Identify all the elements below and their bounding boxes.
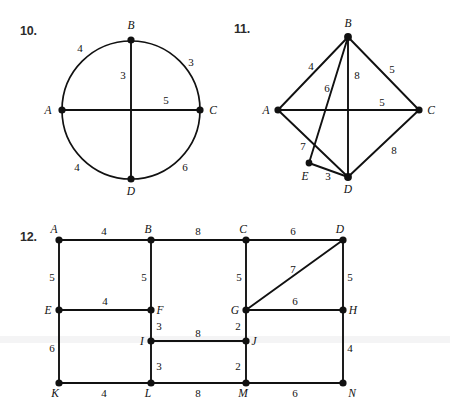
node-L	[147, 379, 154, 386]
problem-12-figure: A B C D E F G H I J K L M N 4 8 6 5 5 5 …	[0, 0, 450, 405]
weight-label-H-N: 4	[347, 342, 353, 354]
vertex-label-M: M	[237, 387, 249, 399]
vertex-label-A: A	[49, 223, 58, 235]
weight-label-M-N: 6	[292, 387, 298, 399]
node-A	[55, 236, 62, 243]
weight-label-G-H: 6	[292, 295, 298, 307]
vertex-label-K: K	[50, 387, 60, 399]
node-B	[147, 236, 154, 243]
node-G	[242, 306, 249, 313]
weight-label-A-B: 4	[101, 225, 107, 237]
vertex-label-D: D	[335, 223, 345, 235]
vertex-label-N: N	[347, 387, 357, 399]
vertex-label-G: G	[231, 304, 240, 316]
weight-label-G-J: 2	[235, 320, 241, 332]
weight-label-F-I: 3	[156, 320, 162, 332]
weight-label-I-L: 3	[156, 360, 162, 372]
weight-label-E-K: 6	[49, 342, 55, 354]
weight-label-D-G: 7	[290, 263, 296, 275]
vertex-label-L: L	[144, 387, 151, 399]
node-I	[147, 337, 154, 344]
vertex-label-I: I	[139, 335, 145, 347]
node-F	[147, 306, 154, 313]
vertex-label-C: C	[239, 223, 247, 235]
vertex-label-H: H	[348, 304, 358, 316]
weight-label-C-G: 5	[236, 271, 242, 283]
node-K	[55, 379, 62, 386]
vertex-label-B: B	[144, 223, 151, 235]
node-H	[339, 306, 346, 313]
weight-label-B-C: 8	[195, 225, 201, 237]
weight-label-K-L: 4	[101, 387, 107, 399]
node-E	[55, 306, 62, 313]
weight-label-E-F: 4	[102, 295, 108, 307]
worksheet-page: 10. A B C D 4 3 3 5 4 6 11.	[0, 0, 450, 405]
weight-label-I-J: 8	[195, 327, 201, 339]
node-D	[339, 236, 346, 243]
weight-label-D-H: 5	[347, 271, 353, 283]
weight-label-J-M: 2	[235, 360, 241, 372]
vertex-label-J: J	[251, 335, 257, 347]
node-C	[242, 236, 249, 243]
vertex-label-E: E	[43, 304, 51, 316]
weight-label-A-E: 5	[49, 271, 55, 283]
vertex-label-F: F	[155, 304, 164, 316]
node-J	[242, 337, 249, 344]
node-M	[242, 379, 249, 386]
node-N	[339, 379, 346, 386]
weight-label-L-M: 8	[195, 387, 201, 399]
weight-label-B-F: 5	[141, 271, 147, 283]
weight-label-C-D: 6	[290, 225, 296, 237]
